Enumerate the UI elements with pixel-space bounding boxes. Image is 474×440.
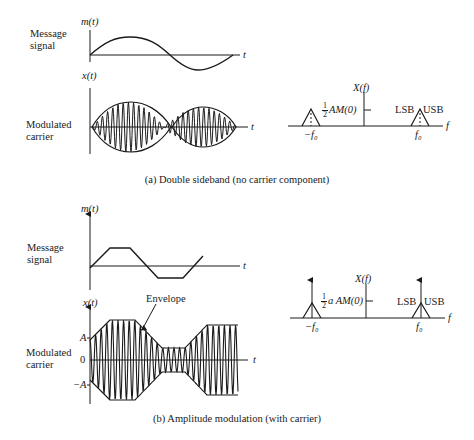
usb-label: USB <box>423 104 443 116</box>
panel-a-message-plot <box>90 30 240 70</box>
lsb-label: LSB <box>397 296 416 308</box>
envelope-pointer-arrow <box>143 304 156 328</box>
t-axis-label: t <box>251 121 254 133</box>
caption-a: (a) Double sideband (no carrier componen… <box>0 174 474 185</box>
one-half-fraction: 1 2 <box>322 102 328 119</box>
label-line-1: Message <box>27 242 64 254</box>
amplitude-text: AM(0) <box>329 104 356 115</box>
pos-f0-label: f₀ <box>416 321 423 333</box>
panel-b-modulated-plot <box>87 304 248 404</box>
spectrum-axis-label: X(f) <box>353 82 369 94</box>
spectrum-amplitude-label: 1 2 AM(0) <box>322 102 356 119</box>
m-of-t-label: m(t) <box>81 203 99 215</box>
t-axis-label: t <box>243 260 246 272</box>
neg-f0-label: −f₀ <box>304 129 318 141</box>
m-of-t-label: m(t) <box>81 16 99 28</box>
tick-label-A: A <box>80 332 86 344</box>
f-axis-label: f <box>446 120 449 132</box>
label-line-1: Modulated <box>26 119 72 131</box>
label-line-2: carrier <box>26 131 72 143</box>
f-axis-label: f <box>448 312 451 324</box>
message-signal-label: Message signal <box>27 242 64 266</box>
label-line-1: Message <box>30 28 67 40</box>
spectrum-axis-label: X(f) <box>355 273 371 285</box>
label-line-2: signal <box>27 254 64 266</box>
modulated-carrier-label: Modulated carrier <box>26 119 72 143</box>
amplitude-text: a AM(0) <box>328 295 363 306</box>
diagram-canvas <box>0 0 474 440</box>
x-of-t-label: x(t) <box>83 297 98 309</box>
message-sine-curve <box>90 37 233 70</box>
panel-b-message-plot <box>90 214 240 290</box>
envelope-label: Envelope <box>146 293 186 305</box>
t-axis-label: t <box>253 354 256 366</box>
pos-f0-label: f₀ <box>415 129 422 141</box>
message-trapezoid-curve <box>90 248 203 278</box>
frac-den: 2 <box>322 111 328 119</box>
lsb-label: LSB <box>395 104 414 116</box>
tick-label-neg-A: −A <box>73 379 87 391</box>
one-half-fraction: 1 2 <box>321 293 327 310</box>
spectrum-amplitude-label: 1 2 a AM(0) <box>321 293 363 310</box>
usb-label: USB <box>424 296 444 308</box>
message-signal-label: Message signal <box>30 28 67 52</box>
neg-f0-label: −f₀ <box>305 321 319 333</box>
panel-a-modulated-plot <box>90 88 248 154</box>
x-of-t-label: x(t) <box>82 70 97 82</box>
caption-b: (b) Amplitude modulation (with carrier) <box>0 413 474 424</box>
modulated-carrier-label: Modulated carrier <box>26 347 72 371</box>
label-line-1: Modulated <box>26 347 72 359</box>
frac-den: 2 <box>321 302 327 310</box>
panel-b-spectrum-plot <box>290 280 445 318</box>
label-line-2: carrier <box>26 359 72 371</box>
tick-label-zero: 0 <box>80 354 85 366</box>
label-line-2: signal <box>30 40 67 52</box>
panel-a-spectrum-plot <box>288 92 443 126</box>
t-axis-label: t <box>243 49 246 61</box>
